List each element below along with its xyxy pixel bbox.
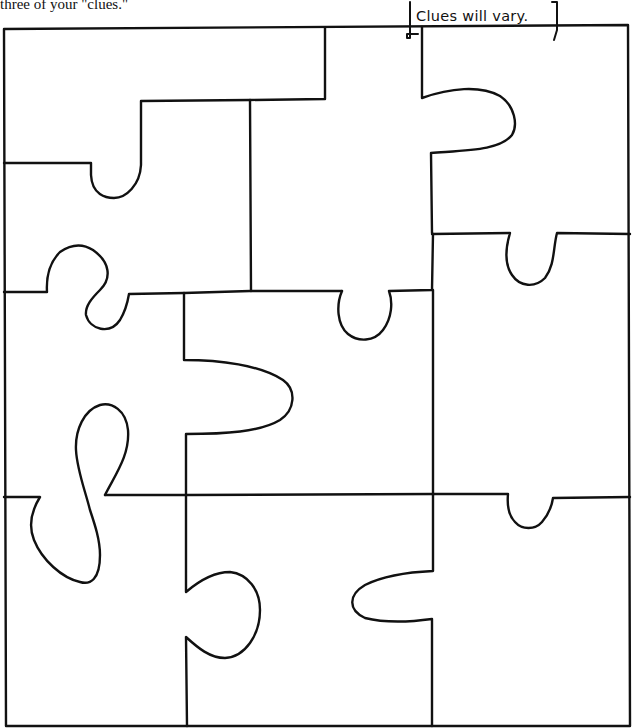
puzzle-edge-lower-left-loop — [4, 404, 128, 582]
puzzle-edge-center-long-knob — [184, 293, 292, 495]
puzzle-edge-lower-horizontal — [105, 494, 630, 528]
puzzle-edge-right-middle — [432, 233, 630, 285]
puzzle-edge-middle-left-s — [4, 246, 342, 329]
annotation-right-bracket — [552, 2, 557, 40]
puzzle-edge-bottom-middle-knob — [186, 495, 260, 726]
puzzle-edge-top-right-knob — [422, 27, 515, 233]
answer-annotation: Clues will vary. — [412, 8, 532, 24]
puzzle-edge-bottom-right-knob — [352, 494, 433, 726]
puzzle-outer-border — [4, 25, 630, 726]
jigsaw-puzzle-diagram — [0, 0, 633, 728]
puzzle-edge-top-left — [4, 28, 325, 198]
puzzle-edge-vertical-a — [250, 100, 251, 291]
puzzle-edge-center-knob — [338, 234, 433, 340]
